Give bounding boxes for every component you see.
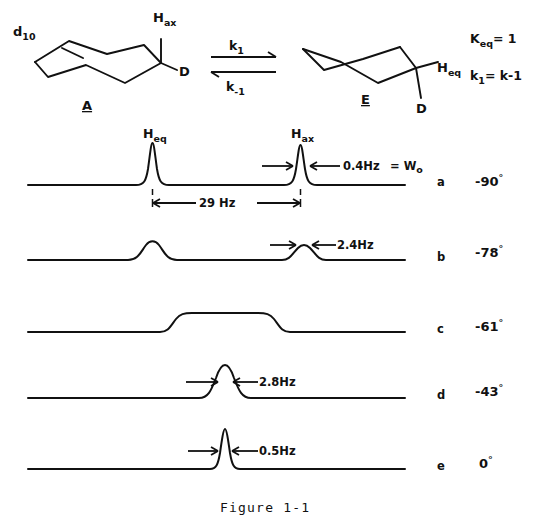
- heq-label-right-wrap: Heq: [437, 60, 461, 78]
- hax-label-left: H: [153, 10, 164, 25]
- trace-temp-c-value: -61: [475, 319, 499, 334]
- heq-label-right-sub: eq: [448, 67, 461, 78]
- keq-value: = 1: [493, 31, 517, 46]
- nmr-figure: d10 Hax D A k1 k-1 Heq D: [0, 0, 547, 529]
- trace-b: 2.4Hz b -78°: [28, 238, 503, 264]
- linewidth-marker-d: [186, 378, 258, 386]
- trace-d: 2.8Hz d -43°: [28, 365, 503, 402]
- rate-relation-value: = k-1: [485, 68, 522, 83]
- trace-temp-e: 0°: [479, 454, 493, 471]
- trace-letter-d: d: [437, 388, 445, 402]
- separation-value: 29 Hz: [199, 196, 236, 210]
- linewidth-w0-definition: = Wo: [390, 159, 423, 175]
- rate-relation-expression: k1= k-1: [470, 68, 522, 86]
- linewidth-marker-a: [262, 162, 340, 170]
- trace-letter-a: a: [437, 175, 445, 189]
- peak-label-heq: H: [143, 126, 153, 141]
- deuteration-label-sub: 10: [22, 31, 36, 42]
- trace-a: Heq Hax 0.4Hz = Wo: [28, 126, 503, 210]
- structure-label-e: E: [361, 92, 370, 107]
- keq-expression: Keq= 1: [470, 31, 516, 49]
- structure-label-a: A: [82, 98, 92, 113]
- trace-letter-c: c: [437, 322, 444, 336]
- trace-temp-c-unit: °: [499, 317, 504, 328]
- linewidth-value-d: 2.8Hz: [259, 375, 296, 389]
- chair-structure-a: [35, 39, 177, 83]
- trace-temp-b-unit: °: [499, 243, 504, 254]
- hax-label-left-wrap: Hax: [153, 10, 176, 28]
- trace-temp-a-value: -90: [475, 174, 499, 189]
- trace-temp-d: -43°: [475, 382, 503, 399]
- trace-c-line: [28, 313, 405, 332]
- figure-caption: Figure 1-1: [220, 500, 310, 515]
- reverse-rate-sub: -1: [234, 86, 245, 97]
- chair-structure-e: [303, 47, 438, 98]
- deuteration-label: d: [13, 24, 22, 39]
- keq-sub: eq: [480, 38, 493, 49]
- rate-relation-sub: 1: [478, 75, 485, 86]
- d-label-left: D: [179, 64, 190, 79]
- linewidth-value-e: 0.5Hz: [259, 444, 296, 458]
- figure-caption-area: Figure 1-1: [0, 495, 547, 529]
- peak-label-hax: H: [291, 126, 301, 141]
- d-label-right: D: [416, 101, 427, 116]
- trace-temp-b-value: -78: [475, 245, 499, 260]
- trace-letter-e: e: [437, 459, 445, 473]
- heq-label-right: H: [437, 60, 448, 75]
- trace-letter-b: b: [437, 250, 445, 264]
- trace-temp-d-value: -43: [475, 384, 499, 399]
- peak-label-hax-wrap: Hax: [291, 126, 314, 144]
- equilibrium-scheme: d10 Hax D A k1 k-1 Heq D: [0, 0, 547, 130]
- peak-label-heq-wrap: Heq: [143, 126, 167, 144]
- forward-rate-wrap: k1: [229, 38, 244, 56]
- trace-temp-a-unit: °: [499, 172, 504, 183]
- trace-c: c -61°: [28, 313, 503, 336]
- peak-label-heq-sub: eq: [153, 133, 166, 144]
- peak-label-hax-sub: ax: [301, 133, 314, 144]
- trace-temp-c: -61°: [475, 317, 503, 334]
- linewidth-value-b: 2.4Hz: [337, 238, 374, 252]
- linewidth-marker-e: [188, 447, 258, 455]
- reverse-rate-wrap: k-1: [226, 79, 245, 97]
- hax-label-left-sub: ax: [164, 17, 177, 28]
- trace-e-line: [28, 429, 405, 469]
- trace-temp-a: -90°: [475, 172, 503, 189]
- trace-temp-e-unit: °: [488, 454, 493, 465]
- w0-equals: = W: [390, 159, 417, 173]
- trace-temp-d-unit: °: [499, 382, 504, 393]
- forward-rate-sub: 1: [237, 45, 244, 56]
- trace-temp-b: -78°: [475, 243, 503, 260]
- trace-e: 0.5Hz e 0°: [28, 429, 493, 473]
- spectra-stack: Heq Hax 0.4Hz = Wo: [0, 123, 547, 493]
- w0-sub: o: [416, 164, 423, 175]
- deuteration-label-sub-wrap: d10: [13, 24, 36, 42]
- linewidth-value-a: 0.4Hz: [343, 159, 380, 173]
- trace-temp-e-value: 0: [479, 456, 488, 471]
